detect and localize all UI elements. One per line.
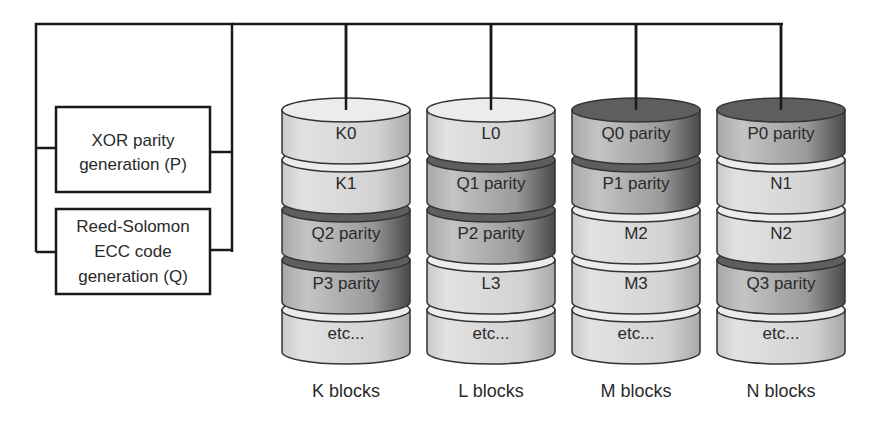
- block-label: P2 parity: [457, 224, 525, 243]
- block-label: M3: [624, 274, 648, 293]
- block-label: etc...: [763, 324, 800, 343]
- block-label: K0: [336, 124, 357, 143]
- stack-n: etc...Q3 parityN2N1P0 parityN blocks: [717, 98, 845, 401]
- block-label: K1: [336, 174, 357, 193]
- rs-line1: Reed-Solomon: [76, 217, 189, 236]
- block-label: P3 parity: [312, 274, 380, 293]
- block-label: Q0 parity: [602, 124, 671, 143]
- stack-m: etc...M3M2P1 parityQ0 parityM blocks: [572, 98, 700, 401]
- xor-parity-generator: XOR parity generation (P): [56, 107, 210, 192]
- block-label: Q2 parity: [312, 224, 381, 243]
- stack-label: L blocks: [458, 381, 523, 401]
- block-label: etc...: [618, 324, 655, 343]
- block-label: M2: [624, 224, 648, 243]
- xor-line2: generation (P): [79, 155, 187, 174]
- block-label: Q1 parity: [457, 174, 526, 193]
- xor-line1: XOR parity: [91, 131, 175, 150]
- stack-label: M blocks: [600, 381, 671, 401]
- block-label: N2: [770, 224, 792, 243]
- disk-stacks: etc...P3 parityQ2 parityK1K0K blocksetc.…: [282, 98, 845, 401]
- raid6-diagram: XOR parity generation (P) Reed-Solomon E…: [0, 0, 871, 422]
- stack-label: N blocks: [746, 381, 815, 401]
- block-label: P1 parity: [602, 174, 670, 193]
- stack-label: K blocks: [312, 381, 380, 401]
- stack-k: etc...P3 parityQ2 parityK1K0K blocks: [282, 98, 410, 401]
- block-label: L3: [482, 274, 501, 293]
- rs-line3: generation (Q): [78, 267, 188, 286]
- block-label: etc...: [473, 324, 510, 343]
- block-label: N1: [770, 174, 792, 193]
- block-label: etc...: [328, 324, 365, 343]
- reed-solomon-generator: Reed-Solomon ECC code generation (Q): [56, 209, 210, 294]
- block-label: L0: [482, 124, 501, 143]
- block-label: P0 parity: [747, 124, 815, 143]
- block-label: Q3 parity: [747, 274, 816, 293]
- rs-line2: ECC code: [94, 242, 171, 261]
- stack-l: etc...L3P2 parityQ1 parityL0L blocks: [427, 98, 555, 401]
